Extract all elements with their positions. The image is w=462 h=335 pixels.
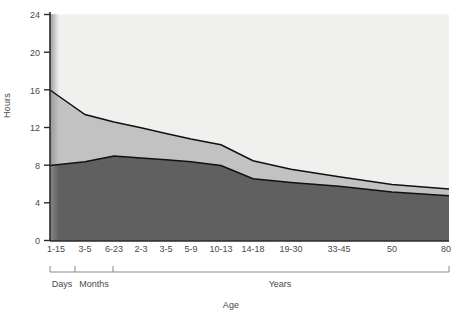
axis-group-bracket <box>50 266 449 272</box>
y-axis-ticks <box>44 15 50 241</box>
chart-plot-svg <box>0 0 462 335</box>
sleep-stages-area-chart: Hours 0 4 8 12 16 20 24 1-15 3-5 6-23 2-… <box>0 0 462 335</box>
left-edge-shading <box>50 14 59 240</box>
